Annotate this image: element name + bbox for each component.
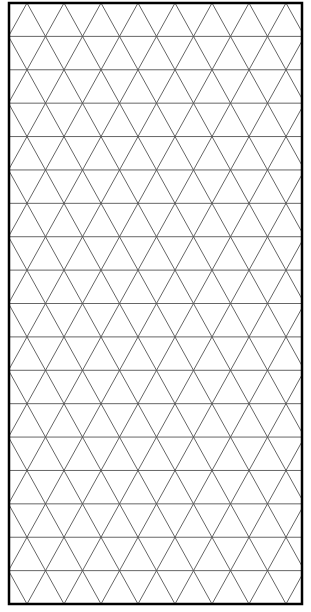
grid-lines	[0, 3, 311, 604]
triangle-grid-diagram	[0, 0, 311, 612]
